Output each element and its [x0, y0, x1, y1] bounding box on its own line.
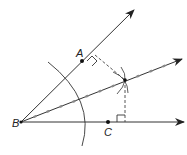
label-a: A: [75, 47, 83, 59]
ray-ba: [21, 10, 134, 122]
geometry-diagram: A B C: [0, 0, 187, 155]
point-a: [80, 59, 84, 63]
point-p: [123, 78, 127, 82]
bisector-ticks: [33, 64, 167, 118]
point-b: [19, 120, 22, 123]
label-b: B: [12, 117, 19, 129]
point-c: [106, 120, 110, 124]
right-angle-marker-a: [87, 56, 97, 66]
right-angle-marker-c: [117, 115, 125, 122]
label-c: C: [104, 126, 112, 138]
